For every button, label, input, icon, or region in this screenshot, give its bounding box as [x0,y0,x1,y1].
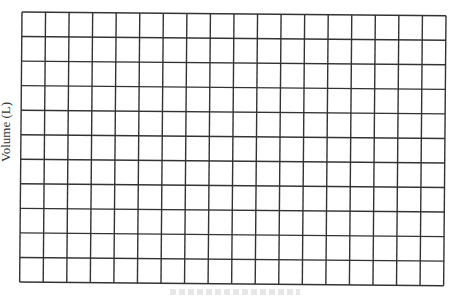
x-axis-label [170,289,300,295]
graph-paper-grid [20,12,446,286]
grid-vertical-line [67,12,69,282]
grid-vertical-line [20,12,22,282]
grid-vertical-line [397,15,399,285]
grid-vertical-line [90,13,92,283]
grid-lines [20,12,446,286]
grid-vertical-line [302,14,304,284]
grid-vertical-line [114,13,116,283]
grid-vertical-line [43,12,45,282]
grid-vertical-line [232,14,234,284]
grid-vertical-line [349,15,351,285]
grid-vertical-line [255,14,257,284]
grid-vertical-line [137,13,139,283]
grid-vertical-line [185,13,187,283]
grid-vertical-line [373,15,375,285]
grid-vertical-line [420,15,422,285]
y-axis-label: Volume (L) [0,92,14,172]
grid-vertical-line [161,13,163,283]
x-axis-label-clipped [170,289,300,297]
grid-vertical-line [326,15,328,285]
grid-vertical-line [444,16,446,286]
grid-vertical-line [279,14,281,284]
grid-vertical-line [208,14,210,284]
